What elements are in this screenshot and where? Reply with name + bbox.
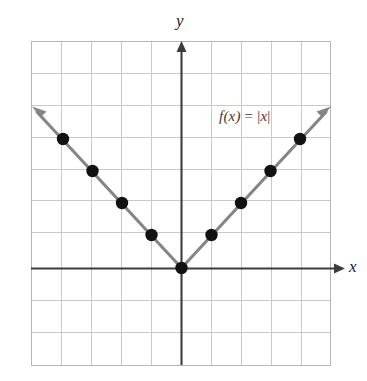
axes [31,41,345,365]
data-point [235,197,247,209]
function-equation-label: f(x) = |x| [219,108,270,125]
data-point [116,197,128,209]
data-point [175,262,187,274]
data-point [264,165,276,177]
function-argument: (x) [223,108,240,124]
data-point [86,165,98,177]
abs-bar-close: | [267,108,270,124]
equals-sign: = [241,108,258,124]
y-axis-arrowhead [177,41,187,52]
curve-right-arrowhead [317,107,332,118]
absolute-value-graph-figure: y x f(x) = |x| [0,0,367,381]
curve-left-arrowhead [32,107,47,118]
y-axis-label: y [176,12,184,29]
data-point [145,229,157,241]
data-point [294,133,306,145]
x-axis-arrowhead [334,264,345,274]
data-point [205,229,217,241]
x-axis-label: x [349,258,357,275]
graph-canvas [0,0,367,381]
data-point [57,133,69,145]
